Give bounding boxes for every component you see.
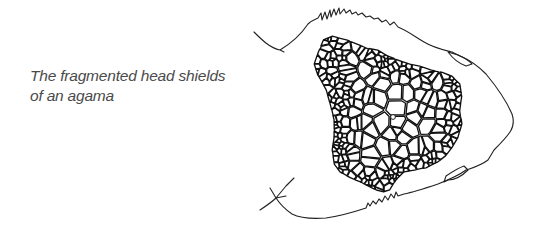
head-scale [371, 186, 375, 189]
head-scale [328, 60, 333, 67]
head-scale [338, 168, 342, 173]
fragmented-head-shields [314, 36, 462, 192]
agama-head-illustration [0, 0, 545, 228]
head-scale [436, 158, 441, 163]
head-scale [366, 185, 371, 187]
pineal-eye-icon [391, 115, 396, 120]
head-scale [394, 178, 397, 182]
head-scale [333, 59, 339, 67]
head-scale [404, 168, 410, 172]
head-scale [390, 71, 399, 84]
head-scale [381, 57, 385, 62]
head-scale [357, 115, 361, 130]
head-scale [334, 122, 337, 125]
head-scale [331, 36, 338, 41]
head-scale [334, 162, 339, 169]
head-scale [432, 151, 437, 159]
head-scale [398, 168, 403, 173]
head-scale [341, 149, 346, 154]
head-scale [386, 101, 406, 115]
head-scale [434, 142, 442, 152]
head-scale [341, 117, 350, 127]
